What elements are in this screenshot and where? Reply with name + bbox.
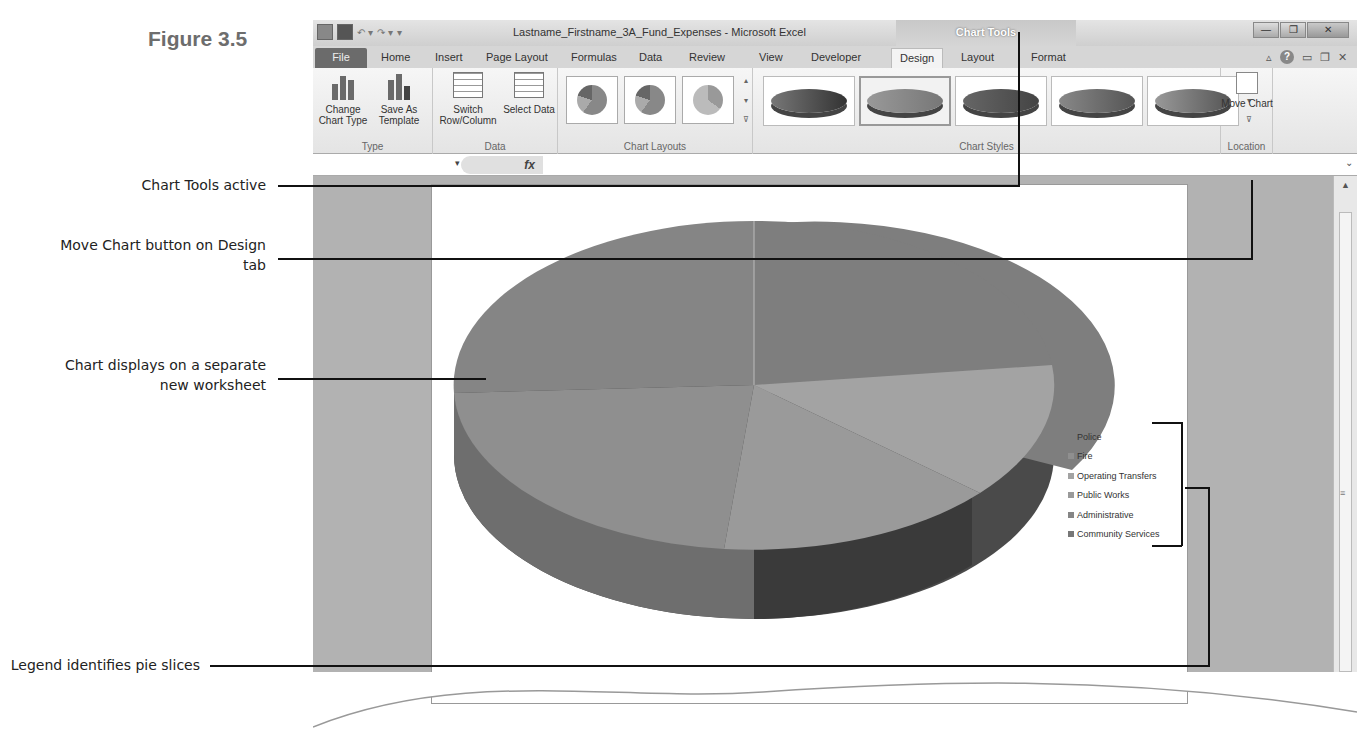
layout-thumb[interactable] bbox=[624, 76, 676, 124]
tab-data[interactable]: Data bbox=[631, 48, 670, 68]
excel-window: ↶ ▾ ↷ ▾ ▾ Lastname_Firstname_3A_Fund_Exp… bbox=[313, 20, 1357, 680]
scroll-up-icon[interactable]: ▲ bbox=[1334, 180, 1357, 190]
quick-access-toolbar: ↶ ▾ ↷ ▾ ▾ bbox=[317, 24, 402, 40]
style-disc-icon bbox=[1059, 89, 1135, 113]
style-disc-icon bbox=[771, 89, 847, 113]
doc-close-icon[interactable]: ✕ bbox=[1338, 51, 1347, 64]
style-disc-icon bbox=[867, 89, 943, 113]
legend-bracket bbox=[1152, 545, 1182, 547]
chart-type-icon bbox=[329, 72, 357, 100]
tab-layout[interactable]: Layout bbox=[953, 48, 1002, 68]
layouts-scroll[interactable]: ▴▾⊽ bbox=[740, 76, 752, 124]
figure-label: Figure 3.5 bbox=[148, 27, 247, 51]
doc-restore-icon[interactable]: ❐ bbox=[1320, 51, 1330, 64]
callout-line bbox=[278, 185, 1018, 187]
move-chart-button[interactable]: Move Chart bbox=[1221, 72, 1273, 109]
tab-page-layout[interactable]: Page Layout bbox=[478, 48, 556, 68]
change-chart-type-button[interactable]: Change Chart Type bbox=[317, 72, 369, 126]
style-thumb[interactable] bbox=[1051, 76, 1143, 126]
style-thumb[interactable] bbox=[763, 76, 855, 126]
callout-line bbox=[1185, 487, 1210, 489]
legend-swatch-icon bbox=[1068, 473, 1074, 479]
callout-separate-sheet: Chart displays on a separate new workshe… bbox=[60, 355, 266, 395]
pie-layout-icon bbox=[635, 85, 665, 115]
ribbon-controls: ▵ ? ▭ ❐ ✕ bbox=[1266, 50, 1347, 64]
excel-icon[interactable] bbox=[317, 24, 333, 40]
expand-formula-bar-icon[interactable]: ⌄ bbox=[1345, 157, 1353, 168]
save-as-template-button[interactable]: Save As Template bbox=[373, 72, 425, 126]
help-icon[interactable]: ? bbox=[1280, 50, 1294, 64]
scroll-thumb[interactable] bbox=[1339, 212, 1352, 672]
switch-row-column-button[interactable]: Switch Row/Column bbox=[435, 72, 501, 126]
pie-layout-icon bbox=[693, 85, 723, 115]
style-thumb-selected[interactable] bbox=[859, 76, 951, 126]
chart-styles-gallery: ▴▾⊽ bbox=[763, 76, 1255, 130]
chart-styles-group: ▴▾⊽ Chart Styles bbox=[753, 68, 1221, 154]
template-icon bbox=[385, 72, 413, 100]
legend-swatch-icon bbox=[1068, 453, 1074, 459]
save-icon[interactable] bbox=[337, 24, 353, 40]
legend-item: Administrative bbox=[1068, 505, 1160, 525]
move-chart-icon bbox=[1236, 72, 1258, 94]
fx-icon[interactable]: fx bbox=[461, 156, 543, 174]
window-title: Lastname_Firstname_3A_Fund_Expenses - Mi… bbox=[513, 26, 806, 38]
ribbon-tabs: File Home Insert Page Layout Formulas Da… bbox=[313, 46, 1357, 68]
tab-developer[interactable]: Developer bbox=[803, 48, 869, 68]
close-button[interactable]: ✕ bbox=[1307, 22, 1349, 38]
tab-format[interactable]: Format bbox=[1023, 48, 1074, 68]
doc-minimize-icon[interactable]: ▭ bbox=[1302, 51, 1312, 64]
select-data-icon bbox=[514, 72, 544, 98]
legend-item: Public Works bbox=[1068, 486, 1160, 506]
tab-review[interactable]: Review bbox=[681, 48, 733, 68]
vertical-scrollbar[interactable]: ▲ ≡ bbox=[1333, 176, 1357, 680]
select-data-button[interactable]: Select Data bbox=[503, 72, 555, 115]
style-thumb[interactable] bbox=[955, 76, 1047, 126]
legend-bracket bbox=[1152, 422, 1182, 424]
formula-bar: ▾ fx ⌄ bbox=[313, 154, 1357, 176]
chart-sheet-area bbox=[313, 176, 1333, 680]
legend-bracket bbox=[1181, 422, 1183, 546]
restore-button[interactable]: ❐ bbox=[1280, 22, 1306, 38]
callout-line bbox=[1251, 180, 1253, 260]
type-group: Change Chart Type Save As Template Type bbox=[313, 68, 433, 154]
callout-line bbox=[278, 258, 1253, 260]
layout-thumb[interactable] bbox=[682, 76, 734, 124]
callout-move-chart: Move Chart button on Design tab bbox=[60, 235, 266, 275]
legend-swatch-icon bbox=[1068, 512, 1074, 518]
minimize-ribbon-icon[interactable]: ▵ bbox=[1266, 51, 1272, 64]
pie-chart[interactable] bbox=[432, 185, 1189, 645]
chart-layouts-gallery: ▴▾⊽ bbox=[566, 76, 752, 130]
tab-home[interactable]: Home bbox=[373, 48, 418, 68]
ribbon: Change Chart Type Save As Template Type … bbox=[313, 68, 1357, 154]
layout-thumb[interactable] bbox=[566, 76, 618, 124]
scroll-grip-icon: ≡ bbox=[1340, 488, 1345, 498]
name-box-dropdown-icon[interactable]: ▾ bbox=[455, 158, 460, 168]
legend-swatch-icon bbox=[1068, 492, 1074, 498]
tab-file[interactable]: File bbox=[315, 48, 367, 68]
callout-line bbox=[1208, 487, 1210, 667]
redo-icon[interactable]: ↷ ▾ bbox=[377, 27, 393, 38]
tab-view[interactable]: View bbox=[751, 48, 791, 68]
chart-legend[interactable]: Police Fire Operating Transfers Public W… bbox=[1068, 427, 1160, 544]
legend-swatch-icon bbox=[1068, 434, 1074, 440]
tab-insert[interactable]: Insert bbox=[427, 48, 471, 68]
legend-item: Police bbox=[1068, 427, 1160, 447]
legend-item: Community Services bbox=[1068, 525, 1160, 545]
callout-chart-tools: Chart Tools active bbox=[60, 175, 266, 195]
callout-line bbox=[278, 378, 486, 380]
tab-design[interactable]: Design bbox=[891, 48, 943, 68]
chart-layouts-group: ▴▾⊽ Chart Layouts bbox=[558, 68, 753, 154]
legend-item: Operating Transfers bbox=[1068, 466, 1160, 486]
style-disc-icon bbox=[1155, 89, 1231, 113]
minimize-button[interactable]: — bbox=[1253, 22, 1279, 38]
data-group: Switch Row/Column Select Data Data bbox=[433, 68, 558, 154]
location-group: Move Chart Location bbox=[1221, 68, 1273, 154]
legend-swatch-icon bbox=[1068, 531, 1074, 537]
customize-qat-icon[interactable]: ▾ bbox=[397, 27, 402, 38]
undo-icon[interactable]: ↶ ▾ bbox=[357, 27, 373, 38]
callout-line bbox=[1018, 32, 1020, 187]
legend-item: Fire bbox=[1068, 447, 1160, 467]
tab-formulas[interactable]: Formulas bbox=[563, 48, 625, 68]
window-controls: — ❐ ✕ bbox=[1253, 22, 1349, 38]
callout-legend: Legend identifies pie slices bbox=[0, 655, 200, 675]
